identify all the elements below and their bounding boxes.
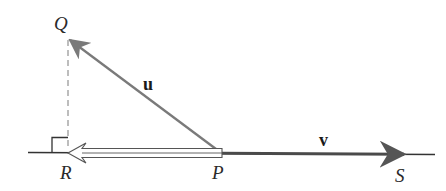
vector-label-v: v [319,131,328,149]
right-angle-marker [52,138,68,153]
vector-u-arrow [70,40,220,152]
point-label-s: S [395,166,405,185]
vector-label-u: u [143,75,153,93]
point-label-p: P [212,163,224,182]
vector-v-arrow [220,153,404,154]
point-label-q: Q [54,14,68,33]
projection-arrow [68,143,222,163]
point-label-r: R [60,163,72,182]
